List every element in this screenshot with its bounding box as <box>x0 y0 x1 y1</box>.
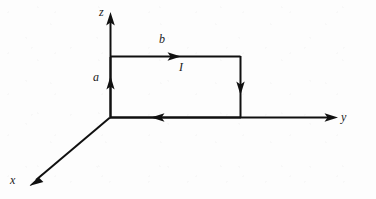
current-label-I: I <box>179 61 183 73</box>
axis-x-arrowhead <box>29 173 43 186</box>
dimension-label-a: a <box>93 71 99 83</box>
axis-label-y: y <box>341 111 346 123</box>
axis-label-z: z <box>99 6 104 18</box>
current-loop <box>106 52 244 122</box>
axis-label-x: x <box>10 174 15 186</box>
axis-x-line <box>36 118 110 181</box>
axis-x <box>29 118 110 187</box>
coordinate-diagram-svg <box>0 0 376 199</box>
figure-canvas: z y x a b I <box>0 0 376 199</box>
dimension-label-b: b <box>159 33 165 45</box>
